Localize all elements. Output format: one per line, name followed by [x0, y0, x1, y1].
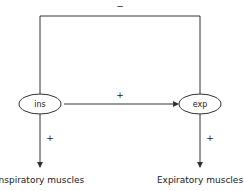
feedback-sign: −	[116, 1, 124, 11]
node-exp: exp	[179, 94, 221, 114]
node-exp-label: exp	[193, 100, 208, 109]
label-expiratory-muscles: Expiratory muscles	[157, 175, 244, 185]
node-ins: ins	[19, 94, 61, 114]
edge-ins-exp-sign: +	[116, 90, 124, 100]
feedback-edge-exp-to-ins	[40, 16, 200, 94]
node-ins-label: ins	[34, 100, 45, 109]
label-inspiratory-muscles: Inspiratory muscles	[0, 175, 84, 185]
edge-ins-muscles-sign: +	[46, 133, 54, 143]
respiratory-control-diagram: − ins exp + + + Inspiratory muscles Expi…	[0, 0, 244, 191]
edge-exp-muscles-sign: +	[206, 133, 214, 143]
